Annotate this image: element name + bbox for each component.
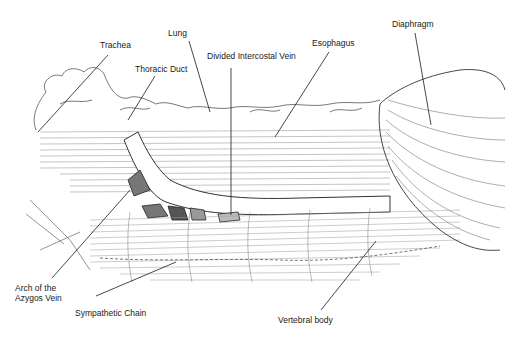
- leader-vertebral: [321, 241, 376, 310]
- leader-sympathetic: [96, 262, 176, 296]
- leader-trachea: [38, 55, 108, 132]
- leader-diaphragm: [415, 33, 431, 125]
- lung-outline: [34, 68, 380, 130]
- vertebral-column: [90, 208, 460, 282]
- leader-lines: [38, 33, 431, 310]
- label-trachea: Trachea: [100, 40, 131, 50]
- label-sympathetic-chain: Sympathetic Chain: [75, 308, 146, 318]
- anatomical-illustration: Trachea Lung Thoracic Duct Divided Inter…: [0, 0, 519, 343]
- left-nerves: [26, 200, 90, 270]
- label-lung: Lung: [168, 28, 187, 38]
- label-thoracic-duct: Thoracic Duct: [135, 64, 187, 74]
- label-vertebral-body: Vertebral body: [278, 315, 333, 325]
- label-diaphragm: Diaphragm: [392, 19, 434, 29]
- label-esophagus: Esophagus: [312, 38, 355, 48]
- leader-thoracic-duct: [128, 76, 155, 120]
- label-divided-intercostal-vein: Divided Intercostal Vein: [207, 51, 296, 61]
- chest-wall-hatching: [40, 130, 390, 192]
- label-arch-of-azygos-vein: Arch of the Azygos Vein: [15, 283, 62, 303]
- leader-esophagus: [275, 52, 329, 137]
- diaphragm-drawing: [379, 70, 505, 251]
